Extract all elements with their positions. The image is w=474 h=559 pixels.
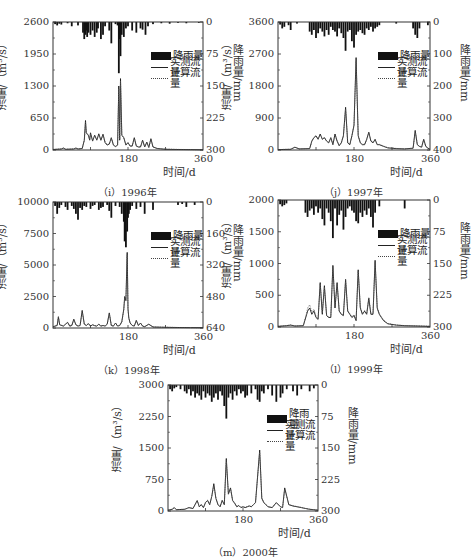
legend-computed-flow-label: 计算流量	[397, 245, 430, 267]
y-tick-label: 1000	[234, 259, 274, 269]
y-axis-label: 流量/（m³/s）	[220, 216, 236, 288]
measured-flow-line	[53, 79, 203, 150]
legend-computed-flow-symbol	[151, 74, 168, 82]
y2-tick-label: 480	[206, 292, 225, 302]
legend-computed-flow: 计算流量	[151, 252, 203, 263]
y2-tick-label: 0	[433, 17, 439, 27]
chart-panel-l: 0500100015002000300225150750180360时间/d流量…	[278, 200, 430, 327]
y2-tick-label: 225	[321, 475, 340, 485]
y-tick-label: 2250	[124, 412, 164, 422]
measured-flow-line	[168, 450, 318, 510]
y2-tick-label: 0	[433, 195, 439, 205]
y-axis-label: 流量/（m³/s）	[0, 217, 11, 289]
panel-caption: （k）1998年	[98, 362, 160, 377]
x-tick-label: 360	[309, 515, 328, 525]
legend-measured-flow-symbol	[378, 63, 395, 71]
x-axis-label: 时间/d	[163, 346, 196, 356]
x-tick-label: 360	[421, 154, 440, 164]
panel-caption: （m）2000年	[213, 544, 278, 559]
x-tick-label: 180	[119, 154, 138, 164]
legend-computed-flow: 计算流量	[267, 435, 318, 446]
legend-rainfall-symbol	[267, 415, 287, 423]
y-tick-label: 5000	[9, 260, 49, 270]
y2-tick-label: 75	[433, 227, 446, 237]
x-tick-label: 180	[119, 332, 138, 342]
y2-tick-label: 200	[433, 81, 452, 91]
y-tick-label: 1800	[234, 81, 274, 91]
y-tick-label: 900	[234, 113, 274, 123]
y2-axis-label: 降雨量/mm	[456, 222, 472, 280]
y-tick-label: 2500	[9, 292, 49, 302]
x-tick-label: 360	[421, 331, 440, 341]
legend-computed-flow-label: 计算流量	[170, 67, 203, 89]
legend-measured-flow-symbol	[151, 243, 168, 251]
chart-panel-i: 0650130019502600300225150750180360时间/d流量…	[53, 22, 203, 150]
legend: 降雨量实测流量计算流量	[267, 413, 318, 446]
legend-rainfall-symbol	[378, 52, 398, 60]
y-tick-label: 2700	[234, 49, 274, 59]
legend-computed-flow-symbol	[378, 252, 395, 260]
chart-panel-m: 0750150022503000300225150750180360时间/d流量…	[168, 385, 318, 511]
legend-measured-flow-symbol	[151, 63, 168, 71]
y2-axis-label: 降雨量/mm	[344, 407, 360, 465]
y-tick-label: 1950	[9, 49, 49, 59]
x-axis-label: 时间/d	[163, 168, 196, 178]
x-axis-label: 时间/d	[278, 529, 311, 539]
legend-computed-flow-symbol	[151, 254, 168, 262]
y-tick-label: 650	[9, 113, 49, 123]
y-tick-label: 3600	[234, 17, 274, 27]
legend: 降雨量实测流量计算流量	[378, 228, 430, 261]
y2-tick-label: 150	[321, 443, 340, 453]
y-tick-label: 1500	[234, 227, 274, 237]
legend-computed-flow-symbol	[378, 74, 395, 82]
legend-rainfall-symbol	[151, 232, 171, 240]
y-tick-label: 500	[234, 290, 274, 300]
x-tick-label: 360	[194, 332, 213, 342]
y-tick-label: 2600	[9, 17, 49, 27]
legend-rainfall-symbol	[151, 52, 171, 60]
y-tick-label: 0	[234, 322, 274, 332]
rainfall-bars	[279, 22, 429, 51]
panel-caption: （j）1997年	[324, 184, 383, 199]
legend-computed-flow-label: 计算流量	[170, 247, 203, 269]
x-tick-label: 180	[345, 154, 364, 164]
y-tick-label: 1500	[124, 443, 164, 453]
y-tick-label: 2000	[234, 195, 274, 205]
panel-caption: （l）1999年	[324, 361, 383, 376]
legend-computed-flow-label: 计算流量	[397, 67, 430, 89]
legend-computed-flow: 计算流量	[151, 72, 203, 83]
x-tick-label: 360	[194, 154, 213, 164]
y-axis-label: 流量/（m³/s）	[220, 38, 236, 110]
y2-tick-label: 225	[433, 290, 452, 300]
legend: 降雨量实测流量计算流量	[151, 230, 203, 263]
y-tick-label: 0	[9, 145, 49, 155]
legend-computed-flow-symbol	[267, 437, 283, 445]
y-tick-label: 3000	[124, 380, 164, 390]
y-tick-label: 7500	[9, 229, 49, 239]
y2-tick-label: 0	[206, 17, 212, 27]
y2-axis-label: 降雨量/mm	[456, 44, 472, 102]
y2-tick-label: 75	[206, 49, 219, 59]
y-tick-label: 0	[124, 506, 164, 516]
y2-tick-label: 225	[206, 113, 225, 123]
x-axis-label: 时间/d	[390, 345, 423, 355]
panel-caption: （i）1996年	[98, 184, 157, 199]
y-axis-label: 流量/（m³/s）	[110, 400, 126, 472]
y-tick-label: 10000	[9, 197, 49, 207]
legend-measured-flow-symbol	[378, 241, 395, 249]
legend-measured-flow-symbol	[267, 426, 283, 434]
y2-tick-label: 150	[433, 259, 452, 269]
legend-computed-flow-label: 计算流量	[285, 430, 318, 452]
y2-tick-label: 0	[206, 197, 212, 207]
legend-computed-flow: 计算流量	[378, 72, 430, 83]
y-tick-label: 1300	[9, 81, 49, 91]
legend: 降雨量实测流量计算流量	[378, 50, 430, 83]
x-tick-label: 180	[234, 515, 253, 525]
legend-computed-flow: 计算流量	[378, 250, 430, 261]
legend: 降雨量实测流量计算流量	[151, 50, 203, 83]
computed-flow-line	[53, 81, 203, 150]
computed-flow-line	[168, 452, 318, 510]
y-tick-label: 750	[124, 475, 164, 485]
chart-panel-j: 09001800270036004003002001000180360时间/d流…	[278, 22, 430, 150]
y2-tick-label: 75	[321, 412, 334, 422]
